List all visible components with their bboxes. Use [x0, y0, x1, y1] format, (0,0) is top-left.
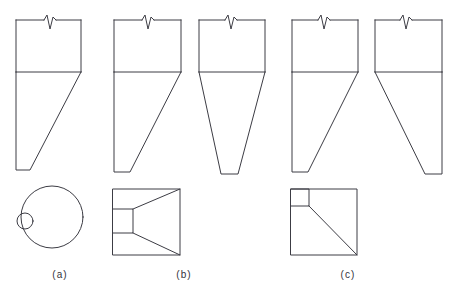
caption-b: (b) [176, 269, 192, 280]
figure-root: (a) [0, 0, 450, 292]
hopper-configurations-diagram: (a) [0, 0, 450, 292]
caption-a: (a) [52, 269, 68, 280]
caption-c: (c) [341, 269, 356, 280]
figure-background [0, 0, 450, 292]
